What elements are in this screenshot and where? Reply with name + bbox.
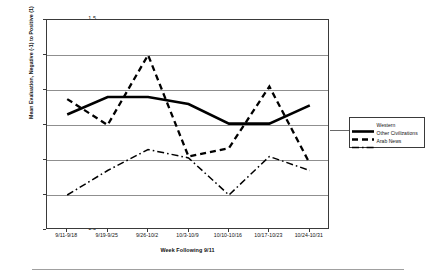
legend-item-western[interactable]: Western: [352, 121, 422, 129]
x-tick-label: 9/26-10/2: [136, 233, 158, 238]
chart-figure: Mean Evaluation, Negative (-1) to Positi…: [0, 0, 432, 278]
legend-label: Other Civilizations: [377, 130, 418, 136]
x-tick-mark: [309, 229, 310, 232]
legend-swatch-icon: [352, 137, 374, 144]
legend-label: Western: [377, 122, 396, 128]
y-axis-title: Mean Evaluation, Negative (-1) to Positi…: [29, 0, 34, 148]
legend-label: Arab News: [377, 138, 402, 144]
x-tick-label: 10/3-10/9: [176, 233, 198, 238]
series-line-other-civilizations: [67, 55, 310, 164]
x-tick-mark: [228, 229, 229, 232]
x-tick-label: 10/10-10/16: [214, 233, 242, 238]
x-tick-mark: [188, 229, 189, 232]
x-tick-label: 9/19-9/25: [95, 233, 117, 238]
legend-swatch-icon: [352, 121, 374, 128]
x-tick-label: 9/11-9/18: [55, 233, 77, 238]
legend-swatch-icon: [352, 129, 374, 136]
legend-item-other-civilizations[interactable]: Other Civilizations: [352, 129, 422, 137]
y-tick-mark: [43, 229, 46, 230]
x-tick-mark: [268, 229, 269, 232]
x-tick-label: 10/24-10/31: [295, 233, 323, 238]
x-tick-mark: [107, 229, 108, 232]
x-tick-mark: [147, 229, 148, 232]
legend-item-arab-news[interactable]: Arab News: [352, 137, 422, 145]
footer-divider: [32, 269, 404, 270]
x-tick-label: 10/17-10/23: [254, 233, 282, 238]
series-line-western: [67, 97, 310, 124]
legend-connector-line: [330, 130, 349, 131]
x-axis-title: Week Following 9/11: [46, 248, 329, 253]
data-series-layer: [47, 20, 330, 230]
series-line-arab-news: [67, 150, 310, 196]
plot-area: [46, 19, 329, 229]
x-tick-mark: [66, 229, 67, 232]
chart-legend: WesternOther CivilizationsArab News: [349, 117, 425, 148]
